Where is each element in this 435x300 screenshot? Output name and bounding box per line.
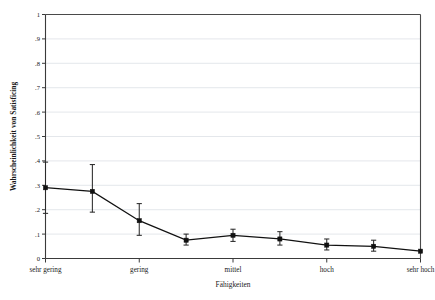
data-point-8 bbox=[418, 249, 422, 253]
y-tick-label-2: .2 bbox=[35, 206, 40, 213]
x-tick-label-4: sehr hoch bbox=[407, 266, 435, 274]
data-point-5 bbox=[278, 237, 282, 241]
y-tick-label-10: 1 bbox=[37, 11, 40, 18]
x-tick-label-3: hoch bbox=[320, 266, 334, 274]
data-point-0 bbox=[43, 186, 47, 190]
y-tick-label-1: .1 bbox=[35, 231, 40, 238]
y-tick-label-5: .5 bbox=[35, 133, 41, 140]
y-tick-label-0: 0 bbox=[37, 255, 41, 262]
y-tick-label-4: .4 bbox=[35, 157, 41, 164]
data-point-2 bbox=[137, 219, 141, 223]
x-axis-title: Fähigkeiten bbox=[216, 280, 251, 289]
y-tick-label-3: .3 bbox=[35, 182, 41, 189]
data-point-4 bbox=[231, 233, 235, 237]
data-point-3 bbox=[184, 238, 188, 242]
data-point-7 bbox=[372, 244, 376, 248]
x-tick-label-2: mittel bbox=[225, 266, 242, 274]
y-tick-label-9: .9 bbox=[35, 35, 41, 42]
x-tick-label-1: gering bbox=[130, 266, 149, 274]
y-tick-label-7: .7 bbox=[35, 84, 41, 91]
y-tick-label-8: .8 bbox=[35, 60, 41, 67]
chart-figure: 0.1.2.3.4.5.6.7.8.91sehr geringgeringmit… bbox=[0, 0, 435, 300]
data-point-1 bbox=[90, 189, 94, 193]
data-point-6 bbox=[325, 243, 329, 247]
y-axis-title: Wahrscheinlichkeit von Satisficing bbox=[9, 82, 18, 192]
x-tick-label-0: sehr gering bbox=[29, 266, 62, 274]
y-tick-label-6: .6 bbox=[35, 109, 41, 116]
line-chart-with-error-bars: 0.1.2.3.4.5.6.7.8.91sehr geringgeringmit… bbox=[0, 0, 435, 300]
